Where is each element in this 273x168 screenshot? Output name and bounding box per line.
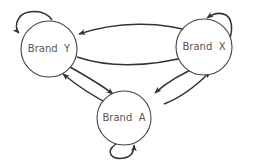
brand-a-label: Brand A bbox=[103, 112, 146, 123]
edge-y-to-a bbox=[70, 67, 113, 94]
node-brand-y: Brand Y bbox=[21, 21, 77, 77]
node-brand-a: Brand A bbox=[97, 91, 151, 145]
brand-y-label: Brand Y bbox=[28, 43, 71, 54]
edge-a-to-a-self-loop bbox=[110, 144, 134, 158]
brand-x-label: Brand X bbox=[183, 41, 226, 52]
brand-switching-diagram: Brand Y Brand X Brand A bbox=[0, 0, 273, 168]
node-brand-x: Brand X bbox=[176, 19, 232, 75]
edge-a-to-x bbox=[164, 72, 210, 104]
